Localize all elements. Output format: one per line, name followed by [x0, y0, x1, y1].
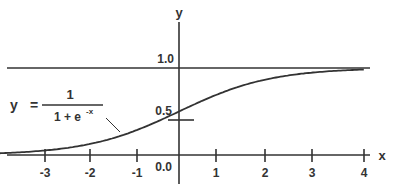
svg-text:y: y: [10, 97, 18, 113]
svg-text:=: =: [30, 97, 38, 113]
x-tick-labels: -3 -2 -1 1 2 3 4: [40, 166, 368, 180]
svg-text:-2: -2: [85, 166, 96, 180]
y-axis-label: y: [175, 5, 183, 20]
svg-text:1 + e: 1 + e: [54, 110, 81, 124]
svg-text:-1: -1: [132, 166, 143, 180]
y-tick-label-1.0: 1.0: [157, 52, 174, 66]
svg-text:1: 1: [66, 87, 73, 102]
svg-text:-x: -x: [86, 107, 94, 116]
svg-text:4: 4: [361, 166, 368, 180]
x-axis-label: x: [378, 148, 386, 163]
formula: y = 1 1 + e -x: [10, 87, 103, 124]
svg-text:1: 1: [213, 166, 220, 180]
svg-text:3: 3: [309, 166, 316, 180]
formula-pointer: [106, 118, 120, 132]
svg-text:-3: -3: [40, 166, 51, 180]
y-tick-label-0: 0.0: [155, 160, 172, 174]
sigmoid-chart: -3 -2 -1 1 2 3 4 0.0 0.5 1.0 y x y = 1 1…: [0, 0, 394, 191]
svg-text:2: 2: [262, 166, 269, 180]
